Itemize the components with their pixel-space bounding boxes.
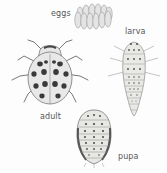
ladybug-life-cycle-illustration: eggs larva [0, 0, 167, 173]
larva-illustration [104, 38, 164, 118]
eggs-label: eggs [51, 10, 71, 18]
eggs-illustration [73, 3, 115, 31]
larva-label: larva [125, 28, 146, 36]
pupa-illustration [74, 108, 114, 168]
pupa-label: pupa [118, 153, 139, 161]
adult-label: adult [40, 113, 61, 121]
adult-ladybug-illustration [8, 36, 94, 108]
